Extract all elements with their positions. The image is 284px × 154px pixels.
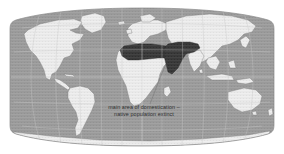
map-body <box>0 0 284 154</box>
island-british-isles <box>126 29 132 34</box>
world-map-figure: main area of domestication – native popu… <box>0 0 284 154</box>
world-map-canvas <box>0 0 284 154</box>
